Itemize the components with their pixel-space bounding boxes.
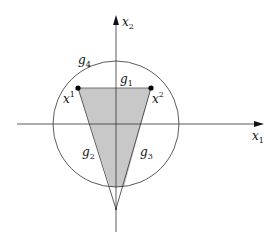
diagram-canvas: x2 x1 x1 x2 g1 g2 g3 g4 [0, 0, 279, 239]
g1-label: g1 [120, 72, 133, 88]
g4-label: g4 [78, 53, 91, 69]
feasible-region [78, 88, 151, 187]
point-x1-label: x1 [63, 90, 75, 106]
point-x2 [148, 85, 153, 90]
g2-label: g2 [82, 145, 95, 161]
x2-axis-label: x2 [122, 15, 134, 31]
x1-axis-label: x1 [252, 129, 264, 145]
point-x1 [75, 85, 80, 90]
apex-point [115, 208, 117, 210]
point-x2-label: x2 [152, 90, 164, 106]
x1-axis-arrow-icon [254, 121, 264, 127]
x2-axis-arrow-icon [113, 15, 119, 25]
g3-label: g3 [140, 145, 153, 161]
